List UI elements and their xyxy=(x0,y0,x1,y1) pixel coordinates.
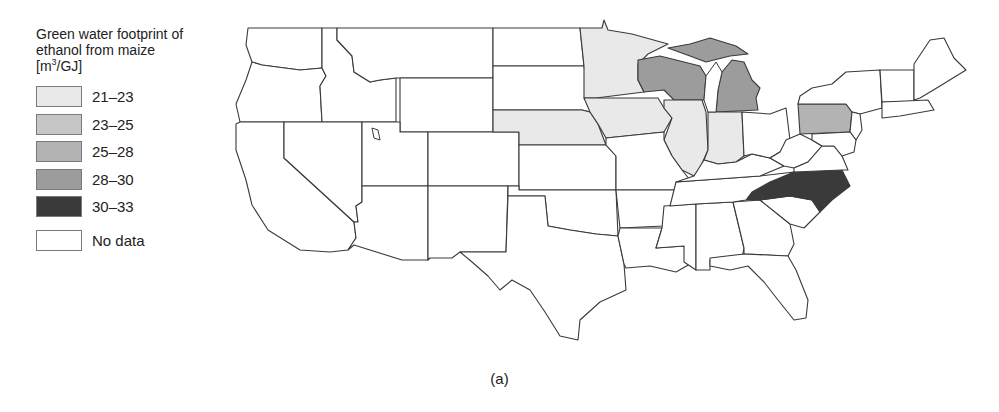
legend-title-line-1: Green water footprint of xyxy=(36,26,216,42)
map-svg xyxy=(232,14,972,344)
legend-items: 21–23 23–25 25–28 28–30 30–33 No data xyxy=(36,83,216,254)
legend-item-no-data: No data xyxy=(36,227,216,255)
state-pennsylvania xyxy=(798,104,852,134)
legend-label: 30–33 xyxy=(92,198,134,215)
legend-label: 21–23 xyxy=(92,88,134,105)
legend-label: 28–30 xyxy=(92,171,134,188)
legend-swatch xyxy=(36,86,82,107)
legend-item-21-23: 21–23 xyxy=(36,83,216,111)
legend-item-25-28: 25–28 xyxy=(36,138,216,166)
legend-item-23-25: 23–25 xyxy=(36,111,216,139)
state-florida xyxy=(710,254,808,320)
state-michigan xyxy=(716,60,760,112)
state-wisconsin xyxy=(638,56,706,100)
us-choropleth-map xyxy=(232,14,972,344)
legend-swatch xyxy=(36,230,82,251)
legend-title: Green water footprint of ethanol from ma… xyxy=(36,26,216,74)
state-vermont-new-hampshire xyxy=(880,70,914,102)
state-south-dakota xyxy=(493,66,590,112)
state-massachusetts-ct-ri xyxy=(882,100,934,118)
legend-item-30-33: 30–33 xyxy=(36,193,216,221)
state-wyoming xyxy=(400,78,493,132)
state-oregon xyxy=(236,62,326,122)
legend-item-28-30: 28–30 xyxy=(36,166,216,194)
figure-caption: (a) xyxy=(0,370,999,387)
legend-title-line-2: ethanol from maize xyxy=(36,42,216,58)
state-michigan-upper xyxy=(668,38,748,62)
state-utah xyxy=(362,122,428,186)
legend-swatch xyxy=(36,196,82,217)
legend-label: No data xyxy=(92,232,145,249)
state-maine xyxy=(914,38,966,100)
state-montana xyxy=(337,28,493,82)
state-north-dakota xyxy=(493,28,584,66)
legend-swatch xyxy=(36,114,82,135)
legend-label: 23–25 xyxy=(92,116,134,133)
state-new-mexico xyxy=(428,186,508,260)
legend-swatch xyxy=(36,169,82,190)
state-colorado xyxy=(428,132,519,186)
legend-swatch xyxy=(36,141,82,162)
map-legend: Green water footprint of ethanol from ma… xyxy=(36,26,216,254)
legend-unit: [m3/GJ] xyxy=(36,58,216,74)
legend-label: 25–28 xyxy=(92,143,134,160)
state-kansas xyxy=(519,145,616,190)
state-indiana xyxy=(704,112,744,164)
